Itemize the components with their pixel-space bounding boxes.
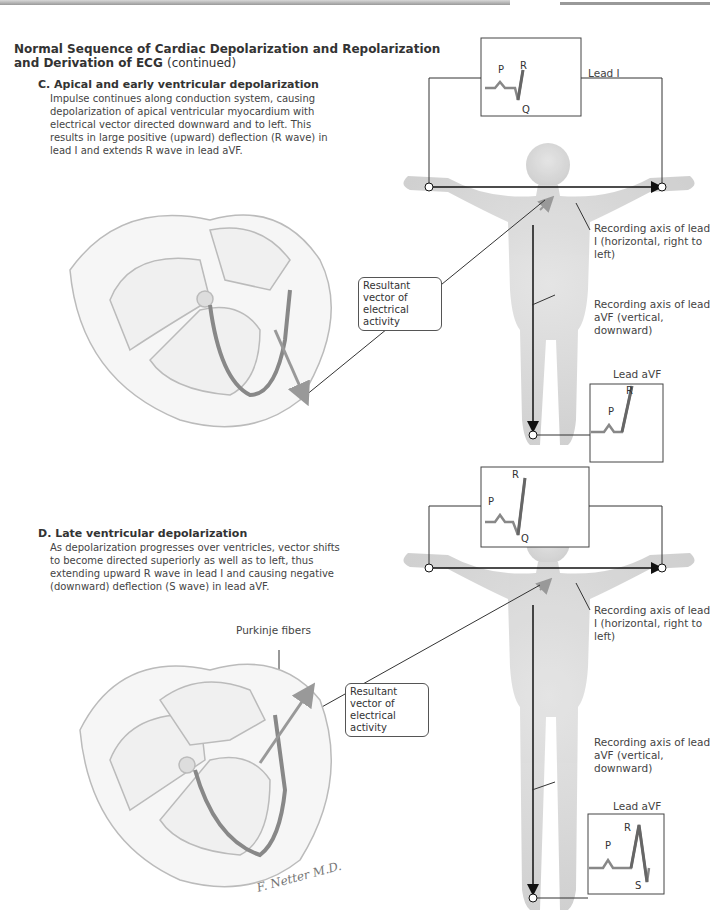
wave-p-lead-i-c: P bbox=[498, 64, 504, 75]
wave-q-lead-i-d: Q bbox=[521, 533, 529, 544]
wave-r-lead-avf-c: R bbox=[626, 385, 633, 396]
wave-p-lead-avf-d: P bbox=[605, 840, 611, 851]
wave-s-lead-avf-d: S bbox=[635, 880, 641, 891]
wave-r-lead-avf-d: R bbox=[624, 822, 631, 833]
wave-p-lead-i-d: P bbox=[488, 496, 494, 507]
resultant-vector-callout-c: Resultant vector of electrical activity bbox=[358, 277, 442, 331]
axis-lead-avf-label-d: Recording axis of lead aVF (vertical, do… bbox=[594, 736, 714, 775]
lead-avf-label-d: Lead aVF bbox=[613, 800, 661, 813]
diagram-canvas: F. Netter M.D. bbox=[0, 0, 728, 916]
lead-avf-label-c: Lead aVF bbox=[613, 368, 661, 381]
heart-illustration-c bbox=[70, 215, 331, 427]
wave-p-lead-avf-c: P bbox=[608, 406, 614, 417]
resultant-vector-callout-d: Resultant vector of electrical activity bbox=[345, 683, 429, 737]
lead-i-box-c bbox=[481, 38, 581, 116]
heart-illustration-d bbox=[80, 664, 331, 886]
axis-lead-i-label-d: Recording axis of lead I (horizontal, ri… bbox=[594, 604, 714, 643]
lead-i-label-c: Lead I bbox=[588, 67, 620, 80]
axis-lead-i-label-c: Recording axis of lead I (horizontal, ri… bbox=[594, 222, 714, 261]
wave-q-lead-i-c: Q bbox=[522, 104, 530, 115]
purkinje-fibers-label: Purkinje fibers bbox=[236, 624, 311, 637]
wave-r-lead-i-d: R bbox=[512, 469, 519, 480]
wave-r-lead-i-c: R bbox=[520, 60, 527, 71]
axis-lead-avf-label-c: Recording axis of lead aVF (vertical, do… bbox=[594, 298, 714, 337]
